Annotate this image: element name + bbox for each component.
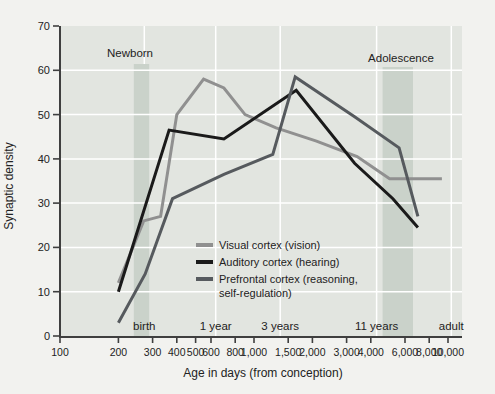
milestone-label-1-year: 1 year: [200, 320, 232, 332]
x-tick-label-300: 300: [144, 346, 162, 358]
adolescence-band: [383, 67, 413, 336]
x-tick-label-1500: 1,500: [275, 346, 301, 358]
y-tick-label-60: 60: [38, 64, 50, 76]
newborn-label: Newborn: [107, 47, 153, 59]
synaptic-density-chart: 0102030405060701002003004005006008001,00…: [0, 0, 495, 394]
chart-layers: 0102030405060701002003004005006008001,00…: [38, 20, 465, 358]
x-tick-label-6000: 6,000: [392, 346, 418, 358]
legend-label-prefrontal-cortex-reasoning-line2: self-regulation): [219, 287, 292, 299]
x-tick-label-600: 600: [202, 346, 220, 358]
y-axis-title: Synaptic density: [2, 142, 16, 229]
y-tick-label-10: 10: [38, 286, 50, 298]
y-tick-label-70: 70: [38, 20, 50, 32]
x-tick-label-200: 200: [110, 346, 128, 358]
legend-label-visual-cortex-vision: Visual cortex (vision): [219, 239, 320, 251]
adolescence-label: Adolescence: [368, 52, 434, 64]
x-axis-title: Age in days (from conception): [183, 366, 342, 380]
x-tick-label-100: 100: [51, 346, 69, 358]
y-tick-label-20: 20: [38, 241, 50, 253]
y-tick-label-50: 50: [38, 109, 50, 121]
milestone-label-11-years: 11 years: [355, 320, 399, 332]
legend-label-auditory-cortex-hearing: Auditory cortex (hearing): [219, 256, 339, 268]
y-tick-label-0: 0: [44, 330, 50, 342]
x-tick-label-1000: 1,000: [241, 346, 267, 358]
x-tick-label-10000: 10,000: [432, 346, 464, 358]
x-tick-label-4000: 4,000: [358, 346, 384, 358]
x-tick-label-3000: 3,000: [333, 346, 359, 358]
milestone-label-3-years: 3 years: [261, 320, 299, 332]
x-tick-label-2000: 2,000: [299, 346, 325, 358]
y-tick-label-30: 30: [38, 197, 50, 209]
x-tick-label-400: 400: [168, 346, 186, 358]
legend-label-prefrontal-cortex-reasoning: Prefrontal cortex (reasoning,: [219, 273, 358, 285]
figure-page: 0102030405060701002003004005006008001,00…: [0, 0, 495, 394]
y-tick-label-40: 40: [38, 153, 50, 165]
milestone-label-birth: birth: [133, 320, 155, 332]
milestone-label-adult: adult: [439, 320, 465, 332]
